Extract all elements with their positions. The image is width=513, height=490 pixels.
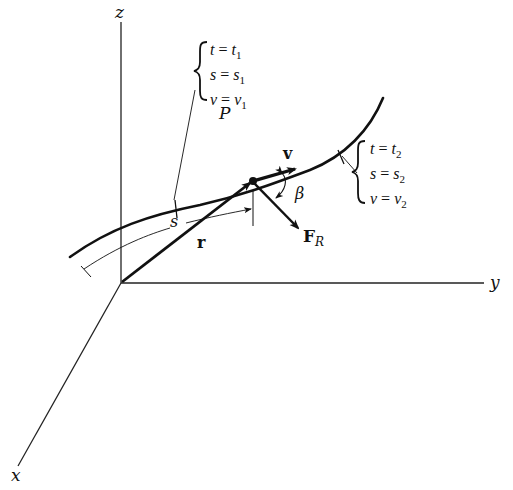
condition-2-v: v = v2 bbox=[370, 189, 407, 214]
condition-block-1: t = t1 s = s1 v = v1 bbox=[210, 40, 247, 115]
force-label-main: F bbox=[303, 226, 315, 246]
brace-condition-1 bbox=[194, 42, 207, 100]
arc-length-label: s bbox=[170, 214, 178, 230]
condition-1-s: s = s1 bbox=[210, 65, 247, 90]
condition-2-s: s = s2 bbox=[370, 164, 407, 189]
condition-2-t: t = t2 bbox=[370, 139, 407, 164]
arc-length-dimension-2 bbox=[186, 209, 251, 223]
position-vector-r bbox=[122, 183, 250, 282]
point-p bbox=[249, 177, 257, 185]
force-vector-fr bbox=[253, 182, 298, 228]
x-axis-label: x bbox=[11, 467, 21, 484]
x-axis bbox=[18, 283, 121, 466]
z-axis-label: z bbox=[115, 4, 124, 21]
brace-condition-2 bbox=[352, 141, 365, 203]
force-label: FR bbox=[303, 228, 324, 248]
y-axis-label: y bbox=[490, 274, 500, 291]
force-label-sub: R bbox=[315, 235, 324, 249]
diagram-canvas bbox=[0, 0, 513, 490]
condition-1-t: t = t1 bbox=[210, 40, 247, 65]
leader-line-1 bbox=[174, 90, 195, 200]
position-label: r bbox=[197, 235, 205, 251]
arc-length-dimension bbox=[84, 228, 170, 269]
condition-1-v: v = v1 bbox=[210, 90, 247, 115]
velocity-label: v bbox=[283, 146, 292, 162]
condition-block-2: t = t2 s = s2 v = v2 bbox=[370, 139, 407, 214]
angle-beta-label: β bbox=[295, 186, 304, 202]
particle-path-diagram: z y x P v r FR β s t = t1 s = s1 v = v1 … bbox=[0, 0, 513, 490]
angle-beta-arc bbox=[276, 173, 285, 198]
